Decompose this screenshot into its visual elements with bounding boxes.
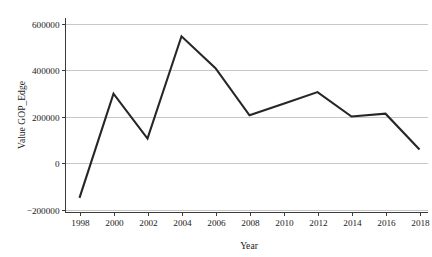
y-tick-label: 0 — [55, 159, 60, 169]
x-tick-label: 2000 — [105, 218, 124, 228]
y-tick-label: 400000 — [32, 66, 60, 76]
y-axis-title: Value GOP_Edge — [16, 81, 27, 149]
data-series-line — [80, 36, 420, 198]
x-tick-label: 2016 — [377, 218, 396, 228]
y-tick-label: 600000 — [32, 20, 60, 30]
y-tick-label: −200000 — [27, 206, 60, 216]
x-tick-label: 2012 — [309, 218, 328, 228]
x-tick-label: 2006 — [207, 218, 226, 228]
chart-canvas: 6000004000002000000−200000 1998200020022… — [0, 0, 432, 257]
gridlines — [66, 25, 429, 211]
y-tick-label: 200000 — [32, 113, 60, 123]
x-axis-title: Year — [240, 240, 258, 251]
line-chart: 6000004000002000000−200000 1998200020022… — [0, 0, 432, 257]
x-tick-label: 2014 — [343, 218, 362, 228]
x-tick-label: 2010 — [275, 218, 294, 228]
x-tick-label: 2002 — [139, 218, 158, 228]
x-tick-label: 2004 — [173, 218, 192, 228]
x-axis-tick-labels: 1998200020022004200620082010201220142016… — [71, 218, 430, 228]
x-tick-label: 2018 — [411, 218, 430, 228]
x-tick-label: 1998 — [71, 218, 90, 228]
y-axis-tick-labels: 6000004000002000000−200000 — [27, 20, 60, 216]
x-tick-label: 2008 — [241, 218, 260, 228]
